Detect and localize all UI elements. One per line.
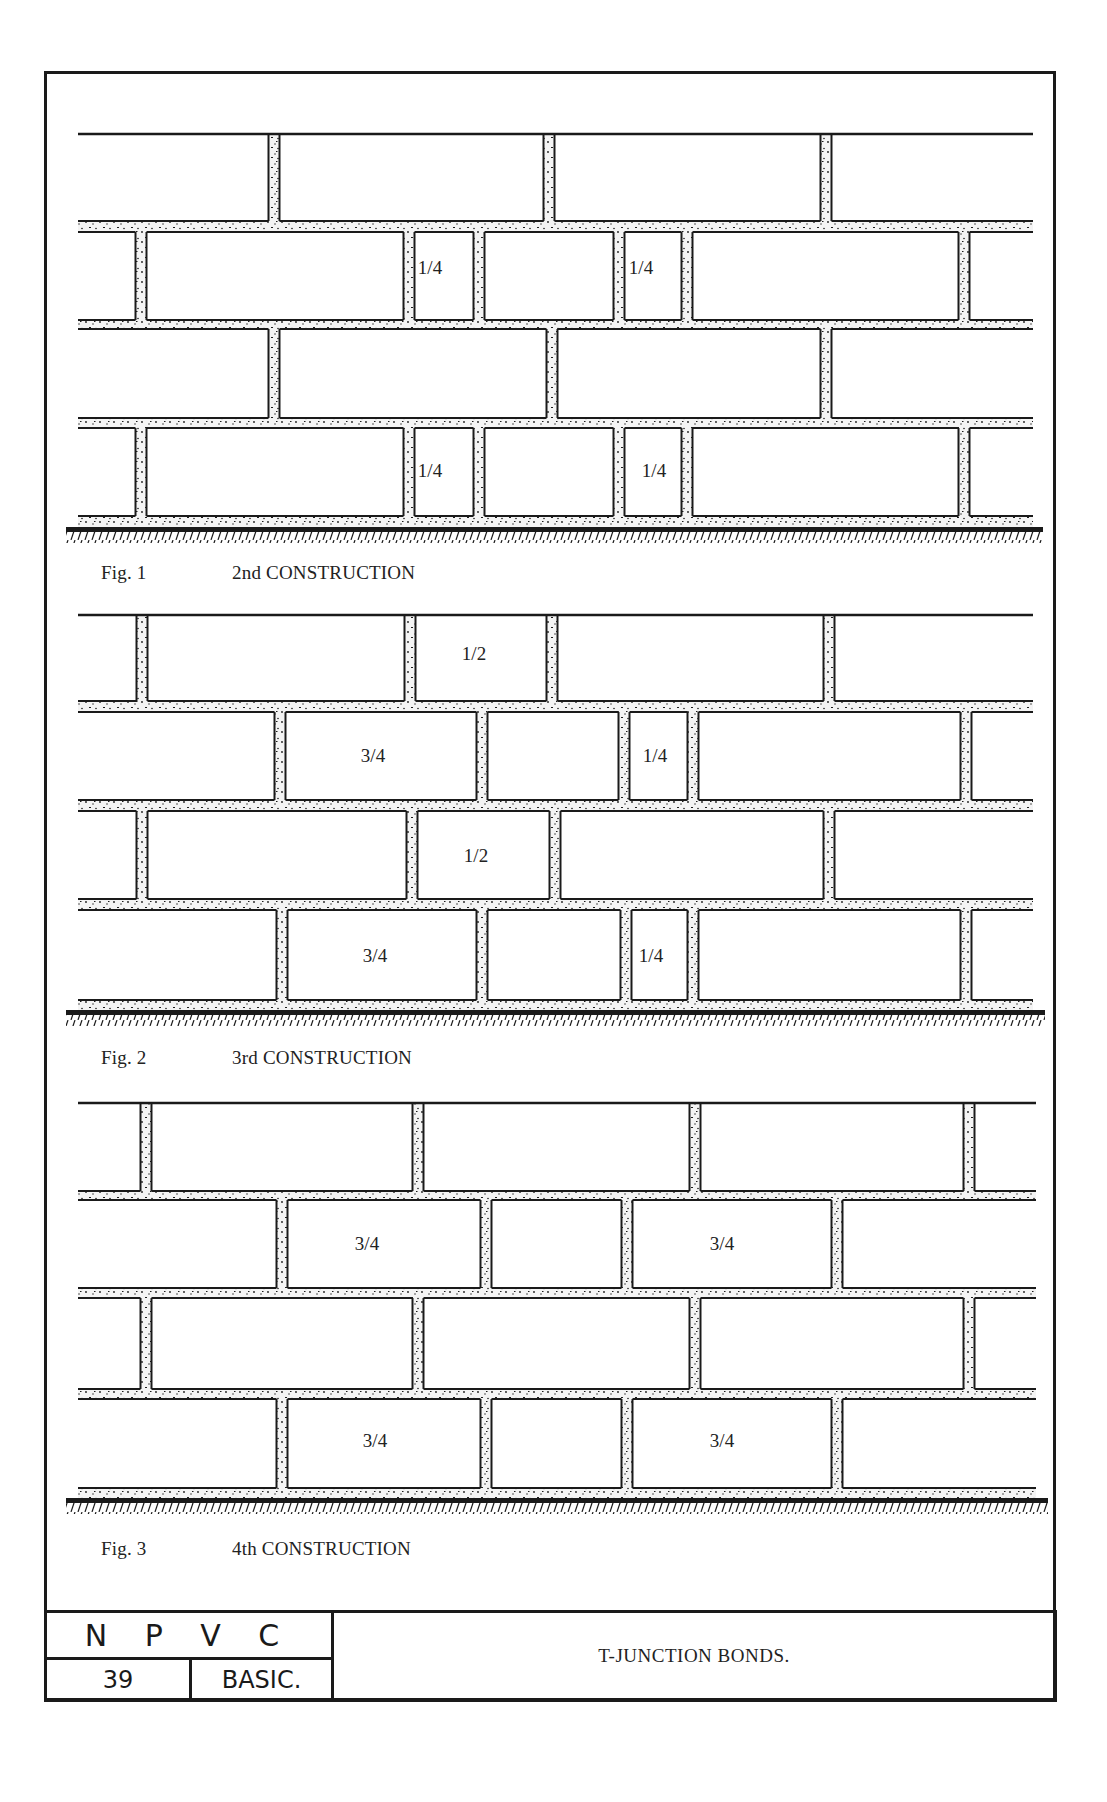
sheet-number: 39 [47, 1660, 192, 1699]
brick-size-label: 1/4 [418, 257, 443, 278]
brick-wall-drawings: 1/41/41/41/4 1/23/41/41/23/41/4 3/43/43/… [0, 0, 1107, 1802]
brick-size-label: 1/2 [462, 643, 486, 664]
brick-size-label: 3/4 [710, 1430, 735, 1451]
drawing-sheet: 1/41/41/41/4 1/23/41/41/23/41/4 3/43/43/… [0, 0, 1107, 1802]
title-block: N P V C 39 BASIC. T-JUNCTION BONDS. [44, 1610, 1057, 1702]
brick-size-label: 3/4 [361, 745, 386, 766]
brick-size-label: 3/4 [355, 1233, 380, 1254]
figure-3-wall: 3/43/43/43/4 [66, 1099, 1048, 1514]
brick-size-label: 1/2 [464, 845, 488, 866]
figure-1-title: 2nd CONSTRUCTION [232, 562, 415, 584]
figure-1-wall: 1/41/41/41/4 [66, 130, 1043, 543]
brick-size-label: 1/4 [642, 460, 667, 481]
brick-size-label: 3/4 [363, 1430, 388, 1451]
figure-1-label: Fig. 1 [101, 562, 147, 584]
brick-size-label: 1/4 [639, 945, 664, 966]
figure-3-title: 4th CONSTRUCTION [232, 1538, 411, 1560]
title-block-left: N P V C 39 BASIC. [47, 1613, 334, 1699]
figure-2-title: 3rd CONSTRUCTION [232, 1047, 412, 1069]
course-level: BASIC. [192, 1660, 331, 1699]
brick-size-label: 3/4 [710, 1233, 735, 1254]
brick-size-label: 1/4 [629, 257, 654, 278]
organization-code: N P V C [47, 1613, 331, 1660]
figure-2-wall: 1/23/41/41/23/41/4 [66, 611, 1045, 1026]
figure-3-label: Fig. 3 [101, 1538, 147, 1560]
brick-size-label: 3/4 [363, 945, 388, 966]
brick-size-label: 1/4 [643, 745, 668, 766]
drawing-title: T-JUNCTION BONDS. [334, 1613, 1054, 1699]
figure-2-label: Fig. 2 [101, 1047, 147, 1069]
brick-size-label: 1/4 [418, 460, 443, 481]
